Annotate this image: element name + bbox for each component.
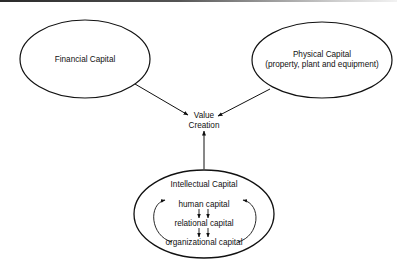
human-capital-label: human capital: [179, 200, 230, 209]
intellectual-capital-node: Intellectual Capital human capital relat…: [134, 170, 274, 258]
value-label: Value: [194, 111, 215, 120]
physical-capital-sublabel: (property, plant and equipment): [265, 60, 379, 69]
physical-to-value-arrow: [218, 89, 270, 116]
human-to-relational-arrows: [199, 209, 208, 218]
financial-capital-node: Financial Capital: [20, 20, 150, 98]
financial-capital-label: Financial Capital: [55, 55, 116, 64]
value-creation-node: Value Creation: [189, 111, 220, 130]
left-loop-arrow: [154, 200, 172, 242]
physical-capital-node: Physical Capital (property, plant and eq…: [252, 22, 392, 98]
intellectual-capital-title: Intellectual Capital: [171, 180, 238, 189]
relational-capital-label: relational capital: [174, 219, 233, 228]
value-creation-diagram: Financial Capital Physical Capital (prop…: [0, 0, 397, 273]
right-loop-arrow: [238, 200, 256, 242]
physical-capital-label: Physical Capital: [293, 50, 351, 59]
relational-to-organizational-arrows: [199, 228, 208, 237]
financial-to-value-arrow: [135, 84, 188, 115]
creation-label: Creation: [189, 121, 220, 130]
organizational-capital-label: organizational capital: [166, 238, 243, 247]
